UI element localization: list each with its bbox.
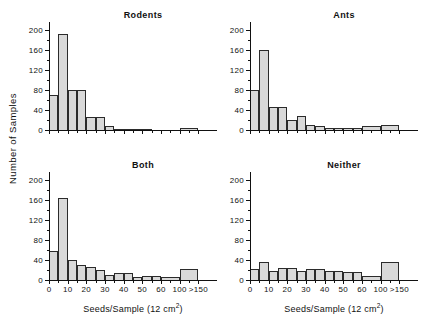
x-tick-major [198,280,199,284]
x-tick-label: 20 [82,285,92,294]
x-tick-minor [96,280,97,283]
histogram-bar [86,267,95,280]
y-tick-minor [248,210,251,211]
x-tick-major [142,130,143,134]
x-tick-label: 40 [320,285,330,294]
y-tick-label: 80 [34,235,44,244]
x-tick-major [86,130,87,134]
histogram-bar [353,272,362,280]
x-tick-major [362,280,363,284]
x-tick-major [287,280,288,284]
x-tick-label: 0 [248,285,253,294]
x-tick-label: 10 [63,285,73,294]
x-tick-major [105,280,106,284]
x-tick-minor [390,130,391,133]
plot-area: 040801201602000102030405060100>150 [49,172,217,280]
panel-title: Both [132,160,154,170]
y-tick-minor [47,40,50,41]
x-tick-label: 20 [283,285,293,294]
y-tick-major [45,50,49,51]
panel-title: Neither [327,160,361,170]
x-tick-minor [170,130,171,133]
y-axis-line [49,22,50,130]
y-tick-label: 200 [230,25,244,34]
y-tick-label: 0 [38,276,43,285]
x-tick-minor [189,280,190,283]
y-tick-minor [248,80,251,81]
x-tick-minor [315,280,316,283]
histogram-bar [343,272,352,280]
histogram-bar [381,262,400,280]
x-tick-label: 50 [138,285,148,294]
x-tick-major [399,130,400,134]
x-tick-minor [58,280,59,283]
y-tick-major [246,260,250,261]
x-tick-minor [133,130,134,133]
x-tick-label: 100 [374,285,388,294]
panel-title: Rodents [124,10,163,20]
histogram-bar [278,107,287,130]
panel-neither: 040801201602000102030405060100>150Neithe… [250,172,418,280]
x-tick-minor [77,130,78,133]
figure-histogram-grid: Number of Samples 04080120160200Rodents0… [0,0,442,323]
x-tick-minor [58,130,59,133]
x-tick-major [269,130,270,134]
x-tick-major [250,280,251,284]
y-tick-major [246,200,250,201]
x-tick-major [381,280,382,284]
x-tick-label: 60 [357,285,367,294]
y-tick-label: 80 [235,235,245,244]
x-tick-minor [278,130,279,133]
x-tick-minor [77,280,78,283]
panel-title: Ants [333,10,355,20]
y-tick-major [246,240,250,241]
y-axis-label-wrap: Number of Samples [0,0,22,300]
y-tick-minor [248,60,251,61]
histogram-bar [114,273,123,280]
histogram-bar [315,269,324,280]
x-tick-label: 10 [264,285,274,294]
y-tick-label: 160 [230,45,244,54]
histogram-bar [259,262,268,280]
x-tick-minor [152,130,153,133]
y-axis-line [250,22,251,130]
x-tick-major [399,280,400,284]
x-tick-label: 100 [173,285,187,294]
histogram-bar [269,107,278,130]
y-tick-minor [248,190,251,191]
x-tick-minor [334,280,335,283]
x-tick-major [86,280,87,284]
y-axis-label: Number of Samples [7,64,18,214]
x-tick-label: >150 [189,285,208,294]
x-tick-label: 0 [47,285,52,294]
y-tick-major [45,260,49,261]
x-tick-minor [152,280,153,283]
x-tick-major [124,280,125,284]
y-tick-minor [47,270,50,271]
y-tick-minor [248,40,251,41]
histogram-bar [58,198,67,280]
x-tick-label: 30 [301,285,311,294]
x-tick-minor [259,130,260,133]
x-tick-minor [315,130,316,133]
x-tick-major [306,130,307,134]
y-tick-minor [248,120,251,121]
y-axis-line [250,172,251,280]
y-tick-label: 0 [38,126,43,135]
histogram-bar [49,95,58,130]
histogram-bar [49,251,58,280]
x-tick-major [325,280,326,284]
y-tick-label: 200 [29,25,43,34]
y-tick-label: 0 [239,276,244,285]
histogram-bar [68,90,77,130]
y-tick-major [246,30,250,31]
x-tick-major [180,130,181,134]
x-tick-major [142,280,143,284]
x-tick-major [198,130,199,134]
x-tick-minor [278,280,279,283]
histogram-bar [306,269,315,280]
y-tick-major [45,70,49,71]
histogram-bar [77,265,86,280]
histogram-bar [297,271,306,280]
y-tick-minor [248,270,251,271]
